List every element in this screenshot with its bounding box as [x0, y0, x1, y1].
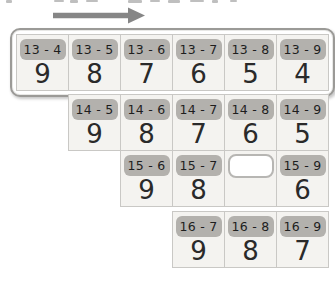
fact-card: 14 - 86: [224, 94, 277, 151]
fact-label: 16 - 7: [176, 216, 222, 237]
fact-card: 14 - 68: [120, 94, 173, 151]
fact-card: 16 - 88: [224, 211, 277, 268]
fact-card: 13 - 49: [16, 34, 69, 91]
blank-answer-slot[interactable]: [228, 154, 274, 178]
fact-card: 14 - 59: [68, 94, 121, 151]
fact-card: 13 - 85: [224, 34, 277, 91]
answer-value: 8: [138, 120, 155, 150]
answer-value: 7: [294, 237, 311, 267]
answer-value: 9: [34, 60, 51, 90]
answer-value: 6: [294, 176, 311, 206]
highlight-outline-13-row: 13 - 4913 - 5813 - 6713 - 7613 - 8513 - …: [10, 28, 335, 97]
fact-label: 14 - 6: [124, 99, 170, 120]
answer-value: 9: [190, 237, 207, 267]
fact-label: 13 - 6: [124, 39, 170, 60]
answer-value: 7: [138, 60, 155, 90]
fact-label: 14 - 5: [72, 99, 118, 120]
fact-label: 14 - 9: [280, 99, 326, 120]
subtraction-facts-worksheet: 13 - 4913 - 5813 - 6713 - 7613 - 8513 - …: [0, 0, 335, 282]
fact-label: 13 - 4: [20, 39, 66, 60]
answer-value: 6: [190, 60, 207, 90]
fact-card: 14 - 77: [172, 94, 225, 151]
fact-card-blank: [224, 150, 277, 207]
fact-card: 15 - 96: [276, 150, 329, 207]
fact-label: 15 - 6: [124, 155, 170, 176]
fact-card: 13 - 67: [120, 34, 173, 91]
fact-label: 16 - 8: [228, 216, 274, 237]
answer-value: 8: [242, 237, 259, 267]
fact-label: 13 - 9: [280, 39, 326, 60]
fact-label: 13 - 5: [72, 39, 118, 60]
fact-label: 15 - 7: [176, 155, 222, 176]
fact-label: 16 - 9: [280, 216, 326, 237]
answer-value: 5: [294, 120, 311, 150]
fact-label: 15 - 9: [280, 155, 326, 176]
fact-card: 15 - 78: [172, 150, 225, 207]
answer-value: 6: [242, 120, 259, 150]
answer-value: 4: [294, 60, 311, 90]
fact-label: 13 - 8: [228, 39, 274, 60]
fact-label: 14 - 7: [176, 99, 222, 120]
answer-value: 5: [242, 60, 259, 90]
fact-row-14: 14 - 5914 - 6814 - 7714 - 8614 - 95: [68, 94, 329, 151]
answer-value: 8: [190, 176, 207, 206]
answer-value: 7: [190, 120, 207, 150]
fact-card: 14 - 95: [276, 94, 329, 151]
fact-row-16: 16 - 7916 - 8816 - 97: [172, 211, 329, 268]
fact-label: 13 - 7: [176, 39, 222, 60]
fact-card: 16 - 97: [276, 211, 329, 268]
answer-value: 9: [138, 176, 155, 206]
fact-card: 16 - 79: [172, 211, 225, 268]
fact-label: 14 - 8: [228, 99, 274, 120]
fact-row-15: 15 - 6915 - 7815 - 96: [120, 150, 329, 207]
fact-card: 13 - 58: [68, 34, 121, 91]
fact-row-13: 13 - 4913 - 5813 - 6713 - 7613 - 8513 - …: [16, 34, 329, 91]
fact-card: 13 - 94: [276, 34, 329, 91]
answer-value: 8: [86, 60, 103, 90]
fact-card: 15 - 69: [120, 150, 173, 207]
right-arrow-icon: [50, 6, 146, 25]
fact-card: 13 - 76: [172, 34, 225, 91]
answer-value: 9: [86, 120, 103, 150]
